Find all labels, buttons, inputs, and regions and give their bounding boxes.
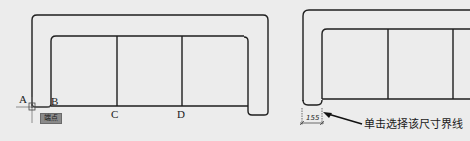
- point-label-a: A: [19, 94, 27, 105]
- dimension-value: 155: [306, 115, 319, 122]
- point-label-d: D: [177, 109, 185, 120]
- sofa-inner-outline-right: [322, 29, 470, 99]
- point-label-c: C: [111, 109, 118, 120]
- snap-tooltip: 端点: [40, 113, 62, 124]
- left-arm-bottom: [303, 100, 322, 105]
- sofa-drawing-right: [303, 10, 470, 105]
- sofa-inner-outline: [32, 36, 244, 107]
- sofa-drawing-left: [32, 15, 268, 115]
- sofa-outer-outline: [32, 15, 268, 115]
- callout-instruction: 单击选择该尺寸界线: [364, 119, 463, 130]
- sofa-outer-outline-right: [303, 10, 470, 101]
- leader-arrow: [323, 112, 362, 124]
- point-label-b: B: [51, 96, 58, 107]
- arrow-head-icon: [323, 112, 332, 118]
